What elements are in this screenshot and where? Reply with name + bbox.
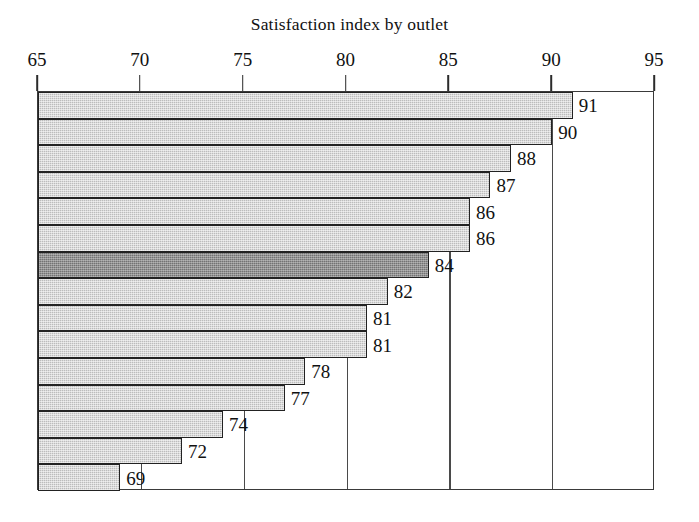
bar-row: 78 [38,358,655,385]
bar-value-label: 81 [373,309,392,328]
bar-value-label: 77 [291,389,310,408]
bar-row: 72 [38,438,655,465]
bar[interactable] [38,119,552,146]
bar[interactable] [38,225,470,252]
bar-row: 82 [38,278,655,305]
bar-row: 77 [38,385,655,412]
bar-row: 81 [38,331,655,358]
x-axis-tick-mark [242,75,244,91]
bar[interactable] [38,411,223,438]
bar[interactable] [38,464,120,491]
bar-row: 87 [38,172,655,199]
bar-row: 91 [38,92,655,119]
plot-area: 919088878686848281817877747269 [37,91,654,490]
x-axis-tick-label: 65 [28,50,47,69]
bar[interactable] [38,438,182,465]
bar[interactable] [38,331,367,358]
bar-row: 88 [38,145,655,172]
x-axis-tick-label: 70 [130,50,149,69]
bar-row: 69 [38,464,655,491]
x-axis-tick-label: 85 [439,50,458,69]
bar[interactable] [38,172,490,199]
bar[interactable] [38,92,573,119]
bar-value-label: 74 [229,415,248,434]
x-axis-tick-mark [345,75,347,91]
bar-value-label: 91 [579,96,598,115]
x-axis-tick-label: 90 [542,50,561,69]
bar-value-label: 78 [311,362,330,381]
bar-row: 74 [38,411,655,438]
bar[interactable] [38,145,511,172]
bar-value-label: 81 [373,336,392,355]
bar-value-label: 90 [558,123,577,142]
bar-value-label: 82 [394,282,413,301]
bar[interactable] [38,385,285,412]
bar-value-label: 86 [476,203,495,222]
x-axis-tick-mark [139,75,141,91]
bar-row: 86 [38,198,655,225]
bar-value-label: 88 [517,149,536,168]
bar-row: 90 [38,119,655,146]
x-axis-tick-label: 75 [233,50,252,69]
x-axis-tick-mark [550,75,552,91]
x-axis-tick-mark [36,75,38,91]
bar-value-label: 84 [435,256,454,275]
x-axis-tick-label: 95 [645,50,664,69]
bar-highlighted[interactable] [38,252,429,279]
x-axis-tick-mark [653,75,655,91]
bar-value-label: 72 [188,442,207,461]
bar[interactable] [38,358,305,385]
bar-row: 81 [38,305,655,332]
bar-row: 84 [38,252,655,279]
bar-value-label: 87 [496,176,515,195]
bar[interactable] [38,278,388,305]
x-axis-tick-mark [448,75,450,91]
bar-chart: Satisfaction index by outlet 65707580859… [0,0,699,522]
bar-value-label: 86 [476,229,495,248]
bar[interactable] [38,305,367,332]
x-axis-tick-label: 80 [336,50,355,69]
bar-row: 86 [38,225,655,252]
bars-container: 919088878686848281817877747269 [38,92,653,489]
bar[interactable] [38,198,470,225]
bar-value-label: 69 [126,469,145,488]
